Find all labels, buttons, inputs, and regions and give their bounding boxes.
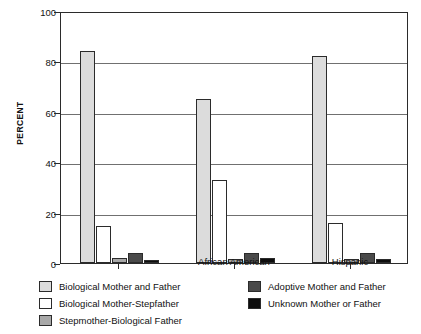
legend-swatch-icon (248, 281, 261, 292)
bar (196, 99, 211, 263)
legend-item[interactable]: Stepmother-Biological Father (39, 312, 182, 329)
y-axis-tick-mark (54, 214, 60, 215)
y-axis-tick-mark (54, 12, 60, 13)
legend-item[interactable]: Biological Mother and Father (39, 278, 182, 295)
bar (212, 180, 227, 263)
legend-item[interactable]: Unknown Mother or Father (248, 295, 386, 312)
y-axis-tick-mark (54, 113, 60, 114)
y-axis-tick-labels: 020406080100 (22, 0, 56, 276)
bars-layer (61, 13, 407, 263)
y-axis-tick-mark (54, 163, 60, 164)
legend-column-left: Biological Mother and FatherBiological M… (39, 278, 182, 329)
bar (312, 56, 327, 263)
legend-label: Biological Mother and Father (59, 281, 180, 292)
legend-swatch-icon (39, 315, 52, 326)
legend-label: Adoptive Mother and Father (268, 281, 386, 292)
x-axis-category-labels: African AmericanHispanic (0, 256, 421, 276)
x-axis-category-label: Hispanic (332, 256, 368, 267)
bar-chart-figure: PERCENT 020406080100 African AmericanHis… (0, 0, 421, 334)
legend-item[interactable]: Biological Mother-Stepfather (39, 295, 182, 312)
legend-swatch-icon (248, 298, 261, 309)
y-axis-tick-mark (54, 62, 60, 63)
legend-item[interactable]: Adoptive Mother and Father (248, 278, 386, 295)
x-axis-category-label: African American (198, 256, 270, 267)
legend-swatch-icon (39, 281, 52, 292)
legend-label: Unknown Mother or Father (268, 298, 381, 309)
legend-swatch-icon (39, 298, 52, 309)
plot-frame (60, 12, 408, 264)
legend-label: Stepmother-Biological Father (59, 315, 182, 326)
plot-area: PERCENT 020406080100 African AmericanHis… (0, 0, 421, 276)
legend-label: Biological Mother-Stepfather (59, 298, 179, 309)
chart-legend: Biological Mother and FatherBiological M… (0, 278, 421, 334)
legend-column-right: Adoptive Mother and FatherUnknown Mother… (248, 278, 386, 312)
bar (80, 51, 95, 263)
